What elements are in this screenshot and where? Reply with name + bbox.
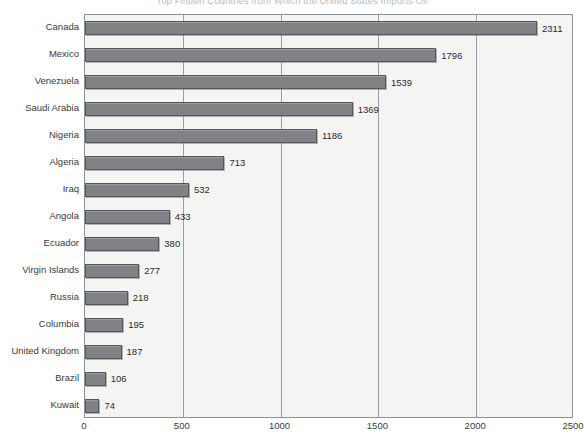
bar-row: 74 [85, 399, 572, 413]
bar-value-label: 74 [104, 401, 115, 411]
bar-value-label: 1539 [391, 78, 412, 88]
category-label-mexico: Mexico [0, 49, 79, 59]
x-axis-tick-labels: 05001000150020002500 [84, 421, 573, 435]
x-tick-2000: 2000 [465, 421, 486, 431]
bar-value-label: 106 [111, 374, 127, 384]
bar-row: 433 [85, 210, 572, 224]
bar-value-label: 532 [194, 185, 210, 195]
bar-canada [85, 21, 537, 35]
bar-virgin-islands [85, 264, 139, 278]
bar-row: 187 [85, 345, 572, 359]
bar-row: 713 [85, 156, 572, 170]
bar-row: 2311 [85, 21, 572, 35]
category-label-kuwait: Kuwait [0, 400, 79, 410]
category-label-virgin-islands: Virgin Islands [0, 265, 79, 275]
category-label-iraq: Iraq [0, 184, 79, 194]
category-label-united-kingdom: United Kingdom [0, 346, 79, 356]
category-label-algeria: Algeria [0, 157, 79, 167]
bar-row: 195 [85, 318, 572, 332]
bar-saudi-arabia [85, 102, 353, 116]
bar-row: 277 [85, 264, 572, 278]
category-label-nigeria: Nigeria [0, 130, 79, 140]
bar-row: 106 [85, 372, 572, 386]
bar-value-label: 1369 [358, 105, 379, 115]
x-tick-500: 500 [174, 421, 190, 431]
bar-value-label: 1796 [441, 51, 462, 61]
bar-value-label: 187 [127, 347, 143, 357]
bar-value-label: 218 [133, 293, 149, 303]
bar-value-label: 433 [175, 212, 191, 222]
plot-area: 2311179615391369118671353243338027721819… [84, 14, 573, 418]
bar-mexico [85, 48, 436, 62]
category-label-venezuela: Venezuela [0, 76, 79, 86]
bar-kuwait [85, 399, 99, 413]
bar-row: 380 [85, 237, 572, 251]
bar-ecuador [85, 237, 159, 251]
bar-row: 1539 [85, 75, 572, 89]
x-tick-1500: 1500 [367, 421, 388, 431]
bar-row: 1796 [85, 48, 572, 62]
bar-russia [85, 291, 128, 305]
x-tick-0: 0 [81, 421, 86, 431]
bar-row: 1369 [85, 102, 572, 116]
y-axis-category-labels: CanadaMexicoVenezuelaSaudi ArabiaNigeria… [0, 14, 79, 418]
bar-algeria [85, 156, 224, 170]
bar-angola [85, 210, 170, 224]
bar-value-label: 277 [144, 266, 160, 276]
category-label-columbia: Columbia [0, 319, 79, 329]
bar-value-label: 2311 [542, 24, 562, 34]
bar-value-label: 1186 [322, 131, 342, 141]
bar-series: 2311179615391369118671353243338027721819… [85, 15, 572, 417]
category-label-saudi-arabia: Saudi Arabia [0, 103, 79, 113]
category-label-angola: Angola [0, 211, 79, 221]
x-tick-1000: 1000 [269, 421, 290, 431]
bar-columbia [85, 318, 123, 332]
bar-row: 532 [85, 183, 572, 197]
bar-iraq [85, 183, 189, 197]
bar-united-kingdom [85, 345, 122, 359]
category-label-brazil: Brazil [0, 373, 79, 383]
chart-title: Top Fifteen Countries from Which the Uni… [0, 0, 584, 6]
category-label-ecuador: Ecuador [0, 238, 79, 248]
bar-value-label: 380 [164, 239, 180, 249]
bar-brazil [85, 372, 106, 386]
bar-nigeria [85, 129, 317, 143]
bar-value-label: 195 [128, 320, 144, 330]
bar-row: 218 [85, 291, 572, 305]
category-label-russia: Russia [0, 292, 79, 302]
bar-value-label: 713 [229, 158, 245, 168]
bar-venezuela [85, 75, 386, 89]
bar-row: 1186 [85, 129, 572, 143]
category-label-canada: Canada [0, 22, 79, 32]
x-tick-2500: 2500 [562, 421, 583, 431]
